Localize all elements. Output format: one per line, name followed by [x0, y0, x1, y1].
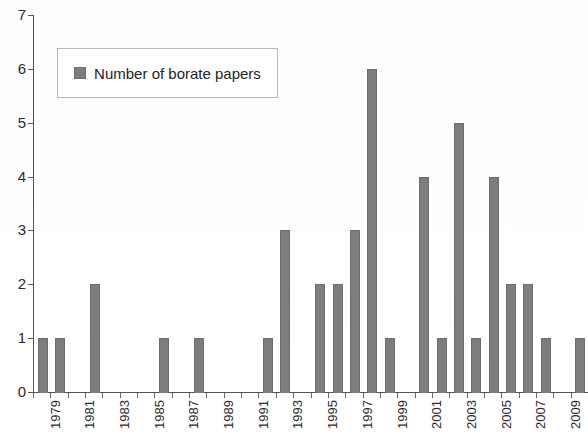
- x-tick-mark: [380, 393, 381, 398]
- y-tick-mark: [28, 338, 34, 339]
- x-tick-label: 2009: [568, 400, 583, 429]
- x-tick-mark: [363, 393, 364, 398]
- x-tick-mark: [345, 393, 346, 398]
- x-tick-mark: [293, 393, 294, 398]
- bar: [385, 338, 395, 393]
- x-tick-label: 1979: [48, 400, 63, 429]
- legend-swatch-icon: [74, 67, 86, 79]
- bar: [541, 338, 551, 393]
- bar: [506, 284, 516, 393]
- x-tick-label: 1981: [82, 400, 97, 429]
- bar: [194, 338, 204, 393]
- y-tick-label: 5: [4, 115, 26, 130]
- x-tick-mark: [553, 393, 554, 398]
- bar: [350, 230, 360, 393]
- legend-label: Number of borate papers: [94, 65, 261, 82]
- bar: [263, 338, 273, 393]
- x-tick-mark: [519, 393, 520, 398]
- x-tick-mark: [137, 393, 138, 398]
- x-tick-mark: [68, 393, 69, 398]
- x-tick-label: 2001: [429, 400, 444, 429]
- y-tick-mark: [28, 177, 34, 178]
- x-tick-mark: [536, 393, 537, 398]
- x-tick-label: 1991: [256, 400, 271, 429]
- y-tick-mark: [28, 230, 34, 231]
- y-tick-label: 0: [4, 384, 26, 399]
- x-tick-mark: [328, 393, 329, 398]
- x-tick-mark: [33, 393, 34, 398]
- bar: [38, 338, 48, 393]
- y-tick-label: 1: [4, 330, 26, 345]
- bar: [367, 69, 377, 393]
- x-tick-mark: [571, 393, 572, 398]
- x-tick-mark: [276, 393, 277, 398]
- x-tick-mark: [189, 393, 190, 398]
- y-tick-mark: [28, 123, 34, 124]
- y-tick-label: 6: [4, 61, 26, 76]
- bar: [471, 338, 481, 393]
- x-tick-mark: [50, 393, 51, 398]
- y-tick-label: 2: [4, 276, 26, 291]
- y-axis-line: [33, 15, 34, 393]
- bar: [489, 177, 499, 393]
- x-tick-label: 1995: [325, 400, 340, 429]
- chart-figure: 01234567 1979198119831985198719891991199…: [0, 0, 588, 439]
- x-tick-mark: [120, 393, 121, 398]
- x-tick-mark: [154, 393, 155, 398]
- x-tick-mark: [258, 393, 259, 398]
- x-tick-label: 1989: [221, 400, 236, 429]
- y-tick-mark: [28, 15, 34, 16]
- x-tick-mark: [484, 393, 485, 398]
- x-tick-label: 2005: [499, 400, 514, 429]
- x-tick-label: 1993: [290, 400, 305, 429]
- bar: [55, 338, 65, 393]
- y-tick-label: 4: [4, 169, 26, 184]
- bar: [454, 123, 464, 393]
- x-tick-label: 1985: [152, 400, 167, 429]
- bar: [280, 230, 290, 393]
- x-tick-mark: [415, 393, 416, 398]
- x-tick-label: 1983: [117, 400, 132, 429]
- chart-legend: Number of borate papers: [57, 48, 278, 98]
- bar: [575, 338, 585, 393]
- bar: [315, 284, 325, 393]
- x-tick-mark: [206, 393, 207, 398]
- x-tick-label: 2003: [464, 400, 479, 429]
- x-tick-mark: [311, 393, 312, 398]
- x-tick-mark: [449, 393, 450, 398]
- y-tick-label: 7: [4, 7, 26, 22]
- x-tick-mark: [432, 393, 433, 398]
- x-tick-mark: [224, 393, 225, 398]
- y-tick-mark: [28, 284, 34, 285]
- x-tick-mark: [501, 393, 502, 398]
- bar: [437, 338, 447, 393]
- x-tick-mark: [397, 393, 398, 398]
- x-tick-mark: [241, 393, 242, 398]
- x-tick-mark: [85, 393, 86, 398]
- bar: [90, 284, 100, 393]
- x-tick-label: 1997: [360, 400, 375, 429]
- bar: [159, 338, 169, 393]
- bar: [419, 177, 429, 393]
- x-tick-mark: [467, 393, 468, 398]
- y-tick-label: 3: [4, 222, 26, 237]
- x-tick-mark: [102, 393, 103, 398]
- y-tick-mark: [28, 69, 34, 70]
- x-tick-label: 2007: [533, 400, 548, 429]
- x-tick-label: 1987: [186, 400, 201, 429]
- x-tick-mark: [172, 393, 173, 398]
- bar: [523, 284, 533, 393]
- bar: [333, 284, 343, 393]
- x-tick-label: 1999: [395, 400, 410, 429]
